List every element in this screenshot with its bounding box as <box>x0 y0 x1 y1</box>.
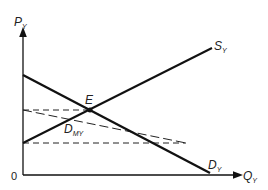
supply-label: SY <box>214 39 228 54</box>
equilibrium-label: E <box>85 93 94 107</box>
supply-demand-diagram: PY QY 0 SY DY DMY E <box>0 0 268 190</box>
demand-curve <box>23 75 210 173</box>
equilibrium-point <box>88 108 93 113</box>
marginal-demand-curve <box>23 110 186 143</box>
demand-label: DY <box>208 158 223 173</box>
marginal-demand-label: DMY <box>64 122 85 137</box>
x-axis-label: QY <box>243 169 258 184</box>
y-axis-label: PY <box>14 15 28 30</box>
origin-label: 0 <box>11 170 17 182</box>
